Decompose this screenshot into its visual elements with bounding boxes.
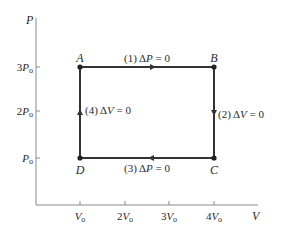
- x-tick-label-2vo: 2Vo: [117, 210, 133, 224]
- x-axis-label: V: [252, 209, 261, 223]
- arrow-up-icon: [77, 109, 83, 115]
- arrow-down-icon: [211, 110, 217, 116]
- point-c: [211, 155, 216, 160]
- process-label-2: (2) ΔV = 0: [218, 108, 265, 121]
- x-tick-label-3vo: 3Vo: [161, 210, 177, 224]
- point-label-a: A: [75, 51, 84, 65]
- y-axis-label: P: [25, 13, 34, 27]
- point-label-d: D: [75, 163, 85, 177]
- x-tick-label-4vo: 4Vo: [206, 210, 222, 224]
- point-d: [77, 155, 82, 160]
- arrow-left-icon: [148, 155, 154, 161]
- point-b: [211, 64, 216, 69]
- point-label-b: B: [210, 51, 218, 65]
- point-label-c: C: [210, 163, 219, 177]
- arrow-right-icon: [150, 64, 156, 70]
- process-label-4: (4) ΔV = 0: [85, 104, 132, 117]
- y-tick-label-2po: 2Po: [17, 105, 33, 119]
- y-tick-label-po: Po: [21, 152, 33, 166]
- point-a: [77, 64, 82, 69]
- process-label-1: (1) ΔP = 0: [124, 52, 171, 65]
- process-label-3: (3) ΔP = 0: [124, 162, 171, 175]
- pv-diagram: P V 3Po 2Po Po Vo 2Vo 3Vo 4Vo A B C D (1…: [0, 0, 288, 233]
- x-tick-label-vo: Vo: [75, 210, 86, 224]
- y-tick-label-3po: 3Po: [17, 61, 33, 75]
